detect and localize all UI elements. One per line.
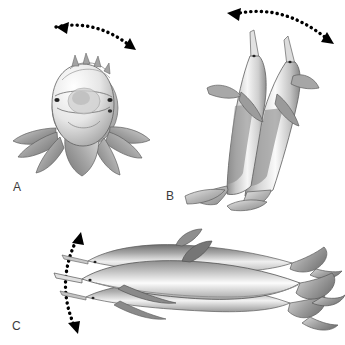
eye-icon bbox=[288, 61, 291, 64]
panel-a-graphic bbox=[0, 0, 172, 200]
eye-left-icon bbox=[54, 98, 59, 102]
eye-icon bbox=[252, 55, 255, 58]
rotation-arrow-a bbox=[56, 22, 136, 50]
panel-c: C bbox=[0, 215, 345, 345]
rotation-arrow-b bbox=[227, 8, 334, 44]
panel-label-a: A bbox=[13, 181, 22, 193]
eye-icon bbox=[94, 261, 97, 263]
eye-icon bbox=[92, 297, 95, 299]
figure-canvas: A bbox=[0, 0, 345, 345]
eye-icon bbox=[88, 279, 91, 282]
panel-label-b: B bbox=[166, 190, 175, 202]
eye-right-icon bbox=[107, 98, 112, 102]
panel-b: B bbox=[155, 0, 345, 210]
panel-c-graphic bbox=[0, 215, 345, 345]
panel-b-graphic bbox=[155, 0, 345, 210]
dolphin-head-frontal bbox=[52, 53, 114, 146]
pectoral-flipper-left-group bbox=[13, 128, 64, 173]
panel-label-c: C bbox=[12, 320, 21, 332]
panel-a: A bbox=[0, 0, 172, 200]
